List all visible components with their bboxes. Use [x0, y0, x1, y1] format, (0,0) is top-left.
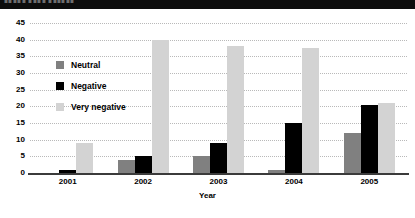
- y-axis-tick-labels: 051015202530354045: [0, 23, 28, 173]
- legend-swatch-icon: [56, 61, 64, 69]
- legend: NeutralNegativeVery negative: [56, 57, 126, 120]
- x-tick-label-2003: 2003: [210, 177, 228, 186]
- x-tick-label-2002: 2002: [134, 177, 152, 186]
- bar-2004-very-negative: [302, 48, 319, 173]
- x-tick-label-2001: 2001: [59, 177, 77, 186]
- legend-swatch-icon: [56, 82, 64, 90]
- legend-label: Neutral: [71, 60, 100, 70]
- bars: [332, 23, 407, 173]
- y-tick-label-15: 15: [16, 119, 25, 127]
- bar-group-2004: [256, 23, 331, 173]
- bar-2005-neutral: [344, 133, 361, 173]
- x-axis-line: [28, 173, 409, 175]
- bar-chart: 051015202530354045 20012002200320042005 …: [0, 9, 415, 218]
- bars: [256, 23, 331, 173]
- bar-2002-neutral: [118, 160, 135, 173]
- x-tick-label-2005: 2005: [360, 177, 378, 186]
- bar-2003-neutral: [193, 156, 210, 173]
- y-tick-label-10: 10: [16, 136, 25, 144]
- legend-label: Very negative: [71, 102, 126, 112]
- y-tick-label-45: 45: [16, 19, 25, 27]
- legend-item-very-negative: Very negative: [56, 99, 126, 115]
- y-tick-label-30: 30: [16, 69, 25, 77]
- y-tick-label-0: 0: [21, 169, 25, 177]
- y-tick-label-40: 40: [16, 36, 25, 44]
- bar-2001-very-negative: [76, 143, 93, 173]
- legend-item-negative: Negative: [56, 78, 126, 94]
- bar-2004-negative: [285, 123, 302, 173]
- x-axis-tick-labels: 20012002200320042005: [30, 177, 407, 191]
- clipped-header-banner: ▮▮▮▮▮ ▮▮▮▮ ▮▮▮▮▮▮: [0, 0, 415, 9]
- legend-swatch-icon: [56, 103, 64, 111]
- bar-2003-very-negative: [227, 46, 244, 173]
- bar-group-2005: [332, 23, 407, 173]
- bar-group-2003: [181, 23, 256, 173]
- y-tick-label-5: 5: [21, 152, 25, 160]
- y-tick-label-35: 35: [16, 52, 25, 60]
- chart-screenshot: ▮▮▮▮▮ ▮▮▮▮ ▮▮▮▮▮▮ 051015202530354045 200…: [0, 0, 415, 218]
- banner-text: ▮▮▮▮▮ ▮▮▮▮ ▮▮▮▮▮▮: [4, 0, 75, 4]
- bar-2002-negative: [135, 156, 152, 173]
- legend-label: Negative: [71, 81, 106, 91]
- bar-2005-very-negative: [378, 103, 395, 173]
- bars: [181, 23, 256, 173]
- y-tick-label-25: 25: [16, 86, 25, 94]
- x-axis-title: Year: [0, 191, 415, 200]
- legend-item-neutral: Neutral: [56, 57, 126, 73]
- x-tick-label-2004: 2004: [285, 177, 303, 186]
- bar-2003-negative: [210, 143, 227, 173]
- y-tick-label-20: 20: [16, 102, 25, 110]
- bar-2002-very-negative: [152, 40, 169, 173]
- bar-2005-negative: [361, 105, 378, 173]
